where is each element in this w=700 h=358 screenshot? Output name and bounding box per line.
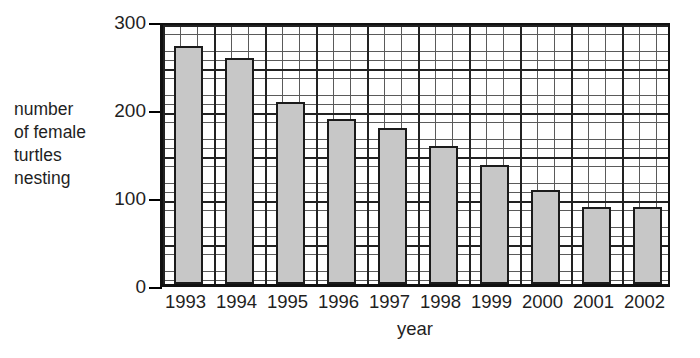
y-axis-tick-label: 0 <box>98 277 146 296</box>
bar <box>633 207 662 284</box>
y-axis-tick-mark <box>149 287 162 289</box>
x-axis-tick-label: 1996 <box>313 292 364 312</box>
x-axis-tick-label: 1994 <box>211 292 262 312</box>
y-axis-tick-label: 300 <box>98 13 146 32</box>
bar <box>480 165 509 284</box>
bar <box>327 119 356 284</box>
bar <box>429 146 458 284</box>
bar <box>174 46 203 284</box>
bar <box>225 58 254 284</box>
y-axis-tick-label: 100 <box>98 189 146 208</box>
x-axis-tick-label: 2002 <box>619 292 670 312</box>
bar <box>378 128 407 284</box>
y-axis-tick-label: 200 <box>98 101 146 120</box>
x-axis-tick-label: 2000 <box>517 292 568 312</box>
plot-area <box>160 23 670 287</box>
x-axis-title: year <box>160 318 670 340</box>
x-axis-tick-label: 1993 <box>160 292 211 312</box>
bar <box>531 190 560 284</box>
bar-series <box>163 25 668 284</box>
bar-chart-figure: number of female turtles nesting 0100200… <box>0 0 700 358</box>
x-axis-tick-label: 1997 <box>364 292 415 312</box>
x-axis-tick-label: 2001 <box>568 292 619 312</box>
x-axis-tick-label: 1995 <box>262 292 313 312</box>
x-axis-tick-label: 1999 <box>466 292 517 312</box>
bar <box>582 207 611 284</box>
x-axis-tick-label: 1998 <box>415 292 466 312</box>
bar <box>276 102 305 284</box>
